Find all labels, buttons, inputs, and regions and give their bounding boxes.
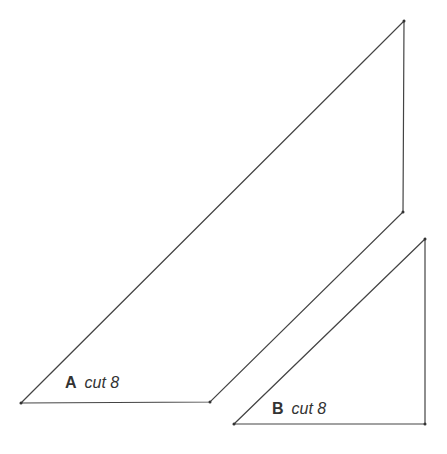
piece-b-label: Bcut 8 xyxy=(272,400,326,418)
piece-a-letter: A xyxy=(65,374,77,391)
piece-a-shape xyxy=(21,21,404,403)
piece-b-shape xyxy=(234,239,425,424)
piece-b-letter: B xyxy=(272,400,284,417)
piece-a-instruction: cut 8 xyxy=(85,374,120,391)
piece-b-instruction: cut 8 xyxy=(292,400,327,417)
vertex-dots xyxy=(20,20,427,426)
piece-a-label: Acut 8 xyxy=(65,374,119,392)
